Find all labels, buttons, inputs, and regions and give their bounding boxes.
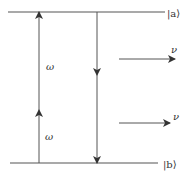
nu-label-2: ν bbox=[173, 111, 179, 122]
energy-level-diagram: |a⟩ |b⟩ ω ω ν ν bbox=[0, 0, 187, 179]
omega-label-lower: ω bbox=[45, 131, 53, 142]
upper-level-label: |a⟩ bbox=[167, 8, 180, 20]
omega-label-upper: ω bbox=[46, 61, 54, 72]
nu-label-1: ν bbox=[171, 44, 177, 55]
lower-level-label: |b⟩ bbox=[163, 159, 177, 171]
